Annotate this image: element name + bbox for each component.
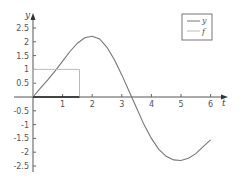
x-tick-label: 5 [179, 100, 184, 109]
x-tick-label: 3 [119, 100, 124, 109]
legend: yf [182, 14, 212, 40]
y-tick-label: -0.5 [13, 107, 29, 116]
x-tick-label: 6 [208, 100, 213, 109]
legend-box [182, 14, 212, 40]
y-tick-label: 2.5 [16, 24, 29, 33]
y-tick-label: -2.5 [13, 162, 29, 171]
x-tick-label: 2 [90, 100, 95, 109]
series-f-line [33, 69, 80, 97]
y-axis-arrow-icon [31, 13, 36, 20]
series-y-line [33, 36, 211, 160]
y-tick-label: -1.5 [13, 134, 29, 143]
y-tick-label: -1 [21, 121, 29, 130]
y-tick-label: -2 [21, 148, 29, 157]
legend-y-label: y [201, 16, 207, 25]
y-tick-label: 2 [24, 38, 29, 47]
y-tick-label: 0.5 [16, 79, 29, 88]
x-axis-label: t [222, 98, 226, 108]
x-tick-label: 1 [60, 100, 65, 109]
x-tick-label: 4 [149, 100, 154, 109]
y-axis-label: y [24, 10, 31, 20]
y-tick-label: 1 [24, 65, 29, 74]
chart: ty 1234562.521.510.5-0.5-1-1.5-2-2.5 yf [0, 0, 243, 182]
series [33, 36, 211, 160]
y-tick-label: 1.5 [16, 52, 29, 61]
